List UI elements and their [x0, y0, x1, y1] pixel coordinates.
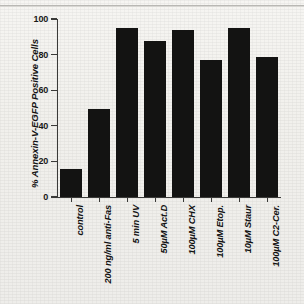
x-tick-mark — [183, 197, 184, 202]
x-tick-mark — [211, 197, 212, 202]
x-axis-label: 100µM Etop. — [215, 205, 225, 258]
bar-chart-plot: % Annexin-V-EGFP Positive Cells 02040608… — [0, 0, 304, 304]
x-tick-mark — [267, 197, 268, 202]
x-axis-label: 100µM C2-Cer. — [271, 205, 281, 267]
x-axis-label: control — [75, 205, 85, 235]
y-tick-label: 40 — [0, 121, 48, 131]
y-tick-label: 80 — [0, 50, 48, 60]
x-axis-label: 50µM Act.D — [159, 205, 169, 253]
y-tick-label: 100 — [0, 14, 48, 24]
bar — [144, 41, 166, 197]
x-axis-label: 100µM CHX — [187, 205, 197, 254]
bar — [200, 60, 222, 197]
y-tick-label: 20 — [0, 156, 48, 166]
x-tick-mark — [155, 197, 156, 202]
x-tick-mark — [71, 197, 72, 202]
bar-series — [57, 19, 281, 197]
x-axis-label: 5 min UV — [131, 205, 141, 244]
x-axis-label: 10µM Staur — [243, 205, 253, 253]
bar — [172, 30, 194, 197]
x-tick-mark — [127, 197, 128, 202]
y-tick-label: 60 — [0, 85, 48, 95]
bar — [228, 28, 250, 197]
x-axis-label: 200 ng/ml anti-Fas — [103, 205, 113, 283]
y-axis-title: % Annexin-V-EGFP Positive Cells — [29, 19, 40, 209]
figure-canvas: % Annexin-V-EGFP Positive Cells 02040608… — [0, 0, 304, 304]
bar — [256, 57, 278, 197]
bar — [88, 109, 110, 197]
bar — [60, 169, 82, 197]
bar — [116, 28, 138, 197]
y-tick-label: 0 — [0, 192, 48, 202]
x-tick-mark — [239, 197, 240, 202]
x-tick-mark — [99, 197, 100, 202]
